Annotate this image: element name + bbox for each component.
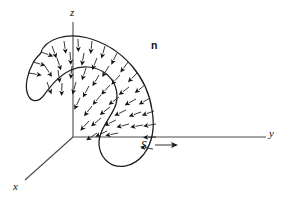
- normal-vector-arrow: [80, 121, 89, 131]
- normal-vector-arrow: [81, 68, 86, 80]
- normal-arrow-shaft: [139, 85, 145, 90]
- normal-arrow-head: [100, 110, 106, 115]
- normal-vector-label: n: [151, 40, 157, 51]
- normal-arrow-head: [119, 90, 125, 95]
- normal-vector-arrow: [33, 62, 46, 67]
- normal-arrow-shaft: [84, 121, 89, 127]
- normal-vector-arrow: [84, 106, 92, 116]
- surface-boundary-path: [26, 36, 153, 166]
- normal-arrow-shaft: [123, 62, 128, 68]
- normal-arrow-shaft: [29, 73, 37, 74]
- normal-vector-arrow: [100, 46, 105, 59]
- normal-arrow-head: [142, 111, 148, 116]
- normal-arrow-shaft: [114, 53, 117, 60]
- normal-arrow-shaft: [105, 85, 110, 91]
- normal-arrow-head: [68, 60, 73, 65]
- normal-vector-arrow: [116, 124, 129, 129]
- normal-arrow-shaft: [91, 41, 92, 49]
- normal-arrow-head: [52, 52, 57, 58]
- normal-vector-arrow: [143, 123, 156, 128]
- normal-arrow-shaft: [87, 106, 92, 112]
- normal-vector-arrow: [119, 87, 129, 95]
- normal-arrow-shaft: [113, 97, 119, 102]
- normal-vector-arrow: [93, 95, 101, 105]
- normal-arrow-shaft: [45, 66, 49, 73]
- z-axis-label: z: [70, 7, 74, 18]
- normal-arrow-shaft: [85, 86, 89, 93]
- surface-label-pointer: [155, 142, 178, 148]
- normal-arrow-head: [86, 135, 92, 140]
- normal-vector-arrow: [125, 99, 136, 105]
- normal-vector-field: [29, 39, 156, 150]
- normal-arrow-head: [63, 48, 68, 53]
- normal-arrow-shaft: [57, 58, 59, 65]
- normal-arrow-shaft: [47, 82, 50, 89]
- normal-vector-arrow: [63, 41, 68, 54]
- normal-vector-arrow: [29, 72, 42, 77]
- normal-arrow-shaft: [104, 107, 110, 112]
- normal-arrow-head: [120, 67, 125, 73]
- normal-arrow-shaft: [41, 52, 48, 55]
- normal-arrow-shaft: [77, 98, 80, 105]
- normal-arrow-head: [116, 124, 122, 129]
- normal-vector-arrow: [101, 85, 110, 95]
- normal-arrow-shaft: [129, 99, 136, 103]
- normal-arrow-head: [80, 60, 85, 66]
- normal-arrow-head: [36, 72, 42, 77]
- normal-arrow-head: [47, 52, 53, 57]
- normal-arrow-head: [40, 62, 46, 67]
- normal-arrow-shaft: [64, 41, 65, 49]
- normal-arrow-shaft: [143, 98, 150, 102]
- normal-vector-arrow: [45, 66, 52, 77]
- normal-vector-arrow: [76, 39, 81, 52]
- normal-arrow-shaft: [123, 87, 129, 92]
- normal-vector-arrow: [128, 73, 137, 82]
- normal-arrow-shaft: [84, 68, 86, 75]
- normal-vector-arrow: [100, 107, 110, 115]
- normal-arrow-head: [47, 71, 52, 77]
- normal-vector-arrow: [71, 82, 76, 95]
- normal-arrow-head: [135, 88, 141, 93]
- normal-vector-arrow: [68, 52, 73, 65]
- normal-arrow-shaft: [58, 70, 59, 78]
- normal-arrow-shaft: [94, 58, 97, 65]
- normal-vector-arrow: [120, 62, 128, 73]
- normal-arrow-shaft: [70, 52, 71, 60]
- normal-arrow-head: [109, 100, 115, 105]
- normal-arrow-shaft: [109, 120, 116, 123]
- surface-label: S: [141, 140, 147, 152]
- normal-vector-arrow: [59, 83, 64, 96]
- normal-arrow-shaft: [83, 53, 84, 61]
- figure-container: z y x n S: [0, 0, 289, 202]
- normal-arrow-shaft: [119, 110, 126, 113]
- surface-outline-group: [26, 36, 153, 166]
- normal-arrow-shaft: [110, 133, 118, 135]
- normal-vector-arrow: [130, 124, 143, 129]
- normal-arrow-shaft: [115, 75, 120, 81]
- normal-arrow-shaft: [121, 124, 129, 126]
- normal-arrow-head: [71, 89, 76, 95]
- normal-vector-arrow: [47, 82, 52, 94]
- normal-vector-arrow: [74, 98, 80, 110]
- normal-vector-arrow: [57, 58, 62, 70]
- normal-vector-arrow: [139, 98, 150, 105]
- normal-arrow-shaft: [135, 125, 143, 126]
- y-axis-label: y: [269, 128, 274, 139]
- normal-vector-arrow: [129, 112, 141, 117]
- normal-vector-arrow: [93, 75, 100, 86]
- normal-arrow-shaft: [132, 73, 137, 79]
- normal-vector-arrow: [89, 41, 94, 54]
- normal-arrow-shaft: [96, 95, 101, 101]
- normal-vector-arrow: [83, 86, 89, 97]
- normal-arrow-shaft: [134, 112, 141, 115]
- normal-arrow-head: [84, 111, 89, 117]
- normal-arrow-head: [129, 112, 135, 117]
- normal-arrow-head: [59, 91, 64, 96]
- normal-arrow-head: [81, 75, 86, 81]
- normal-arrow-head: [130, 124, 136, 129]
- normal-vector-arrow: [114, 110, 126, 116]
- x-axis-line: [25, 137, 73, 180]
- normal-vector-arrow: [91, 118, 101, 126]
- normal-arrow-shaft: [103, 46, 105, 54]
- normal-arrow-shaft: [95, 75, 99, 82]
